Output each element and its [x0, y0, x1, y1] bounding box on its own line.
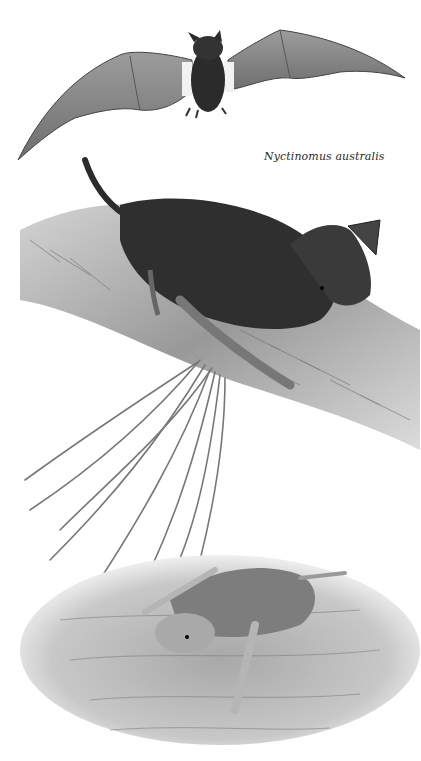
bat-illustration — [0, 0, 421, 761]
illustration-page: Nyctinomus australis — [0, 0, 421, 761]
species-caption: Nyctinomus australis — [264, 150, 385, 163]
flying-bat — [18, 30, 405, 160]
